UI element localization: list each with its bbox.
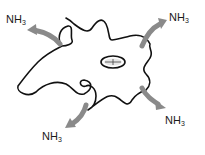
arrow-top-left (34, 30, 60, 44)
nh3-label-bottom-right: NH3 (165, 115, 185, 127)
nh3-label-top-left: NH3 (6, 14, 26, 26)
nh3-label-top-right: NH3 (169, 12, 189, 24)
arrow-top-right (142, 24, 160, 46)
arrow-bottom-left (72, 105, 86, 124)
nh3-label-bottom-left: NH3 (42, 131, 62, 143)
